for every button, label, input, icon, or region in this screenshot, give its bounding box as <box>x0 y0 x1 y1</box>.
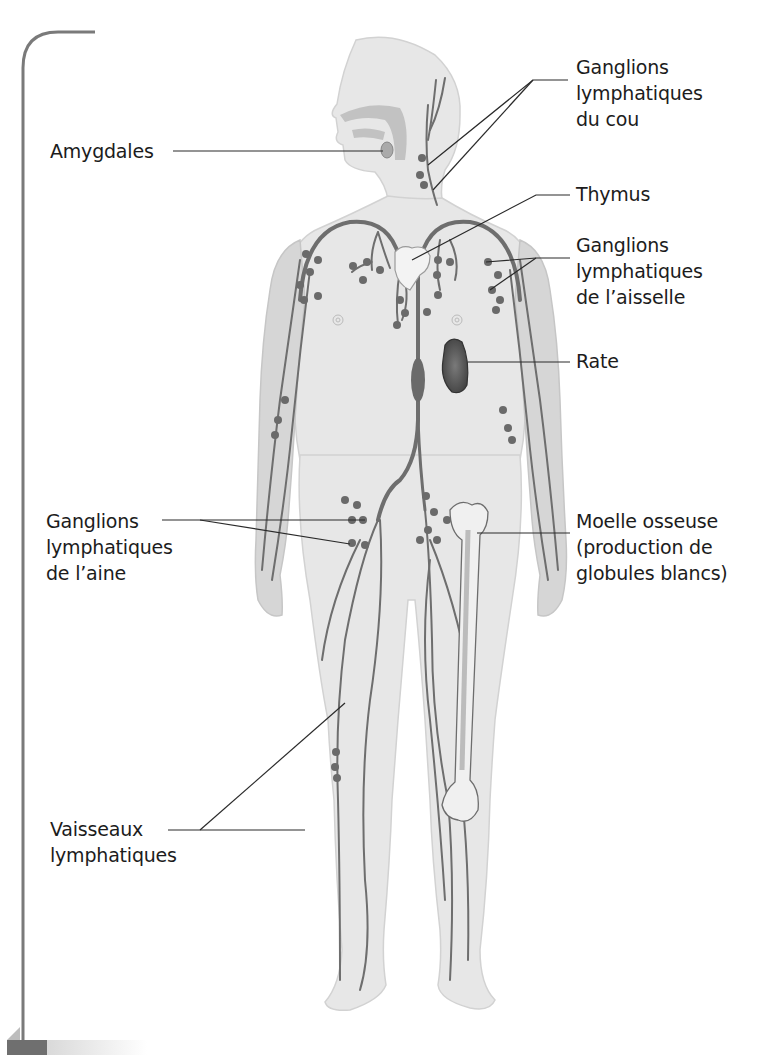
label-thymus: Thymus <box>576 181 650 207</box>
label-amygdales: Amygdales <box>50 138 154 164</box>
label-ganglions-aine: Ganglions lymphatiques de l’aine <box>46 508 173 586</box>
label-vaisseaux: Vaisseaux lymphatiques <box>50 816 177 868</box>
lymphatic-system-diagram: Amygdales Ganglions lymphatiques du cou … <box>0 0 763 1055</box>
label-ganglions-aisselle: Ganglions lymphatiques de l’aisselle <box>576 232 703 310</box>
body-silhouette <box>288 37 530 1010</box>
tonsil <box>381 142 393 158</box>
label-rate: Rate <box>576 348 619 374</box>
cisterna-chyli <box>411 358 425 402</box>
label-ganglions-cou: Ganglions lymphatiques du cou <box>576 54 703 132</box>
spleen-organ <box>442 339 467 393</box>
label-moelle-osseuse: Moelle osseuse (production de globules b… <box>576 508 728 586</box>
